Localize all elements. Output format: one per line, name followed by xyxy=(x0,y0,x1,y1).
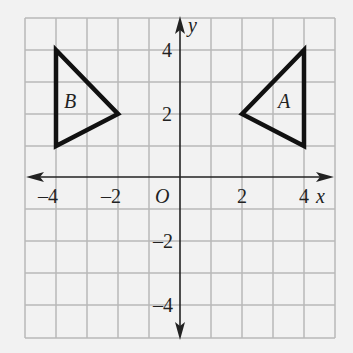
origin-label: O xyxy=(155,185,169,207)
x-tick-4: 4 xyxy=(299,185,309,207)
tick-labels: –4 –2 O 2 4 x 4 2 –2 –4 y xyxy=(37,14,325,316)
y-tick-4: 4 xyxy=(162,39,172,61)
x-tick-neg4: –4 xyxy=(37,185,58,207)
coordinate-plane: B A –4 –2 O 2 4 x 4 2 –2 –4 y xyxy=(0,0,353,353)
y-tick-2: 2 xyxy=(162,103,172,125)
x-axis-label: x xyxy=(315,185,325,207)
triangle-b-label: B xyxy=(64,90,76,112)
y-axis-label: y xyxy=(186,14,197,37)
x-tick-2: 2 xyxy=(237,185,247,207)
y-tick-neg2: –2 xyxy=(152,230,173,252)
y-tick-neg4: –4 xyxy=(152,294,173,316)
x-tick-neg2: –2 xyxy=(100,185,121,207)
triangle-a-label: A xyxy=(276,90,291,112)
